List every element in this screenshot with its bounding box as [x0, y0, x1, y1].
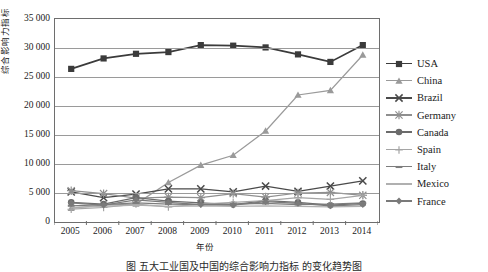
x-axis-title: 年份	[196, 240, 214, 252]
legend-glyph	[392, 194, 406, 208]
legend-label: Brazil	[412, 92, 443, 103]
data-point-square	[101, 55, 107, 61]
data-point-triangle	[395, 77, 402, 83]
legend-glyph	[392, 57, 406, 71]
legend-item-italy[interactable]: Italy	[386, 158, 456, 175]
series-lines	[55, 19, 379, 222]
legend-item-brazil[interactable]: Brazil	[386, 89, 456, 106]
legend-marker-dash-icon	[386, 160, 412, 174]
x-axis-tick-marks	[54, 221, 378, 227]
data-point-square	[327, 59, 333, 65]
y-axis-tick-label: 10 000	[24, 158, 50, 168]
gridline	[55, 164, 379, 165]
legend-marker-star-icon	[386, 108, 412, 122]
legend-item-canada[interactable]: Canada	[386, 124, 456, 141]
chart-figure: 综合影响力指标 05 00010 00015 00020 00025 00030…	[0, 0, 488, 272]
legend-glyph	[392, 108, 406, 122]
legend-item-mexico[interactable]: Mexico	[386, 175, 456, 192]
legend-item-china[interactable]: China	[386, 72, 456, 89]
legend-label: Germany	[412, 110, 456, 121]
y-axis-tick-label: 35 000	[24, 13, 50, 23]
data-point-triangle	[165, 179, 172, 185]
y-axis-tick-label: 30 000	[24, 42, 50, 52]
gridline	[55, 106, 379, 107]
y-axis-tick-labels: 05 00010 00015 00020 00025 00030 00035 0…	[0, 0, 50, 272]
data-point-square	[133, 51, 139, 57]
legend-label: Spain	[412, 144, 441, 155]
legend-item-spain[interactable]: Spain	[386, 141, 456, 158]
gridline	[55, 77, 379, 78]
legend-glyph	[392, 125, 406, 139]
plot-area	[54, 18, 380, 223]
series-usa	[68, 42, 366, 72]
legend-marker-none-icon	[386, 177, 412, 191]
series-brazil	[68, 177, 367, 201]
legend-item-germany[interactable]: Germany	[386, 107, 456, 124]
legend-glyph	[392, 91, 406, 105]
y-axis-tick-label: 0	[45, 216, 50, 226]
y-axis-tick-label: 15 000	[24, 129, 50, 139]
data-point-triangle	[359, 51, 366, 57]
data-point-star	[395, 111, 403, 119]
y-axis-tick-label: 5 000	[29, 187, 50, 197]
legend-glyph	[392, 143, 406, 157]
legend-item-france[interactable]: France	[386, 193, 456, 210]
legend-line	[386, 183, 412, 185]
legend-glyph	[392, 160, 406, 174]
data-point-square	[295, 51, 301, 57]
legend-label: Italy	[412, 161, 436, 172]
chart-legend: USAChinaBrazilGermanyCanadaSpainItalyMex…	[386, 55, 456, 210]
legend-marker-diamond-icon	[386, 194, 412, 208]
legend-item-usa[interactable]: USA	[386, 55, 456, 72]
legend-label: China	[412, 75, 442, 86]
series-germany	[67, 186, 367, 202]
figure-caption: 图 五大工业国及中国的综合影响力指标 的变化趋势图	[0, 258, 488, 272]
data-point-square	[68, 66, 74, 72]
gridline	[55, 193, 379, 194]
legend-marker-square-icon	[386, 57, 412, 71]
legend-label: Canada	[412, 127, 449, 138]
data-point-x	[395, 94, 402, 101]
data-point-circle	[396, 129, 403, 136]
data-point-plus	[327, 196, 335, 204]
data-point-plus	[395, 146, 403, 154]
data-point-square	[396, 60, 402, 66]
data-point-diamond	[396, 198, 403, 205]
legend-marker-x-icon	[386, 91, 412, 105]
data-point-square	[165, 49, 171, 55]
legend-marker-triangle-icon	[386, 74, 412, 88]
legend-marker-plus-icon	[386, 143, 412, 157]
gridline	[55, 135, 379, 136]
legend-marker-circle-icon	[386, 125, 412, 139]
x-axis-tick-label: 2014	[342, 226, 382, 236]
series-line	[71, 191, 363, 199]
legend-label: Mexico	[412, 178, 449, 189]
y-axis-tick-label: 20 000	[24, 100, 50, 110]
gridline	[55, 48, 379, 49]
legend-glyph	[392, 74, 406, 88]
legend-label: France	[412, 196, 446, 207]
y-axis-tick-label: 25 000	[24, 71, 50, 81]
legend-label: USA	[412, 58, 438, 69]
